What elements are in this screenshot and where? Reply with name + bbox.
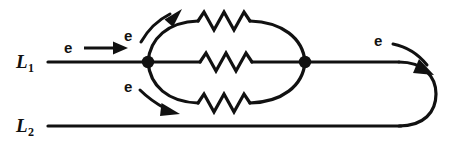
junction-node-right <box>299 56 311 68</box>
branch-bottom-right-arc <box>250 62 305 103</box>
branch-top-left-arc <box>148 21 198 62</box>
branch-top-right-arc <box>250 21 305 62</box>
flow-arrow-return-outflow <box>393 44 434 75</box>
circuit-schematic-canvas <box>0 0 449 149</box>
resistor-bottom <box>198 94 250 112</box>
label-line-2-subscript: 2 <box>28 125 34 139</box>
label-line-1-subscript: 1 <box>28 61 34 75</box>
junction-node-left <box>142 56 154 68</box>
label-line-1-letter: L <box>16 51 28 72</box>
flow-arrow-main-inflow <box>84 42 128 55</box>
label-electron-bottom-branch: e <box>124 79 132 94</box>
label-line-2-letter: L <box>16 115 28 136</box>
label-electron-return-outflow: e <box>374 33 382 48</box>
flow-arrow-bottom-branch-inflow <box>140 90 180 116</box>
label-electron-main-inflow: e <box>64 40 72 55</box>
circuit-diagram-figure: L1 L2 e e e e <box>0 0 449 149</box>
label-line-2: L2 <box>16 116 34 138</box>
label-electron-top-branch: e <box>124 28 132 43</box>
resistor-top <box>198 12 250 30</box>
resistor-middle <box>200 53 252 71</box>
branch-bottom-left-arc <box>148 62 198 103</box>
label-line-1: L1 <box>16 52 34 74</box>
